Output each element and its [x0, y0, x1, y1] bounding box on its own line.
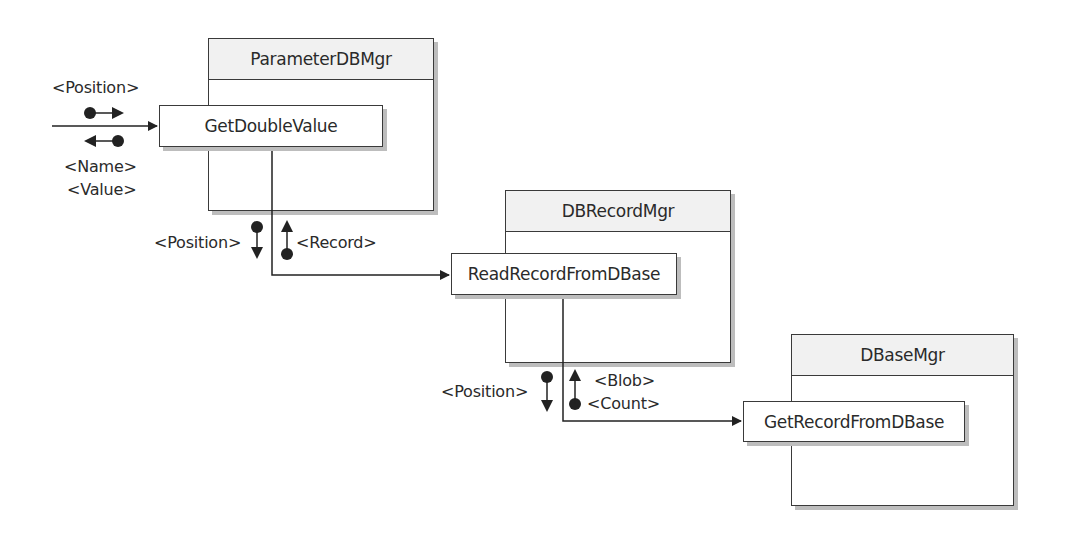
data-couples [0, 0, 1068, 547]
couple-label-position-in: <Position> [52, 78, 139, 97]
couple-arrow-up-icon [281, 222, 293, 260]
couple-label-position-call2: <Position> [441, 382, 528, 401]
couple-arrow-left-icon [86, 135, 124, 147]
couple-label-value: <Value> [67, 180, 136, 199]
couple-label-position-call1: <Position> [154, 233, 241, 252]
couple-label-record: <Record> [296, 233, 377, 252]
couple-label-blob: <Blob> [594, 371, 655, 390]
couple-label-count: <Count> [587, 394, 660, 413]
couple-arrow-up-icon [569, 371, 581, 410]
couple-arrow-down-icon [251, 221, 263, 257]
couple-label-name: <Name> [64, 157, 137, 176]
couple-arrow-down-icon [541, 371, 553, 410]
couple-arrow-right-icon [84, 107, 122, 119]
